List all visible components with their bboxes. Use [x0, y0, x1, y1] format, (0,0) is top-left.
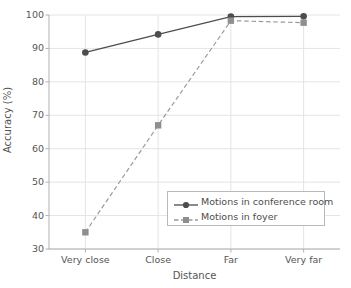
legend-label-foyer: Motions in foyer — [201, 212, 277, 222]
y-tick-label: 40 — [18, 211, 44, 221]
legend-label-conference-room: Motions in conference room — [201, 197, 333, 207]
y-tick-label: 50 — [18, 177, 44, 187]
chart-legend: Motions in conference room Motions in fo… — [167, 191, 325, 226]
y-axis-label: Accuracy (%) — [3, 60, 13, 180]
x-tick-label: Close — [118, 255, 198, 265]
legend-item-conference-room: Motions in conference room — [173, 195, 333, 209]
x-tick-label: Very far — [264, 255, 344, 265]
x-tick-label: Very close — [45, 255, 125, 265]
y-tick-label: 30 — [18, 244, 44, 254]
y-tick-label: 90 — [18, 43, 44, 53]
x-tick-label: Far — [191, 255, 271, 265]
y-tick-label: 100 — [18, 10, 44, 20]
legend-marker-circle-icon — [173, 196, 199, 208]
legend-marker-square-icon — [173, 211, 199, 223]
y-tick-label: 60 — [18, 144, 44, 154]
x-axis-label: Distance — [49, 271, 340, 281]
plot-area — [0, 0, 351, 288]
y-tick-label: 70 — [18, 110, 44, 120]
legend-item-foyer: Motions in foyer — [173, 210, 277, 224]
chart-figure: Accuracy (%) Distance 30405060708090100 … — [0, 0, 351, 288]
y-tick-label: 80 — [18, 77, 44, 87]
y-axis-label-wrap: Accuracy (%) — [0, 0, 16, 250]
